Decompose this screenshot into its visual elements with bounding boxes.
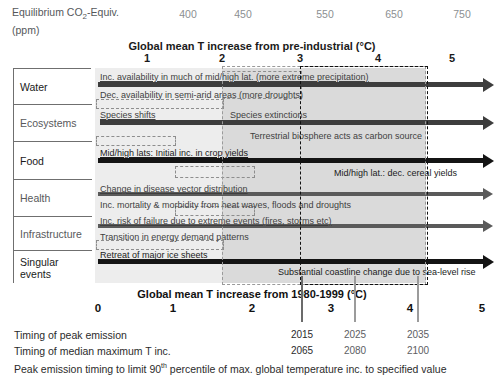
bottom-axis-title: Global mean T increase from 1980-1999 (°… xyxy=(0,288,504,300)
impact-text-2: Species shifts xyxy=(100,110,156,120)
footer-note-b: percentile of max. global temperature in… xyxy=(167,363,447,375)
health-arrow-head xyxy=(483,188,493,200)
bottom-axis-tick-3: 3 xyxy=(321,302,341,314)
footer-note: Peak emission timing to limit 90th perce… xyxy=(14,362,446,375)
co2-tick-750: 750 xyxy=(442,8,482,20)
median-max-year-2080: 2080 xyxy=(338,345,372,356)
co2-label-text1: Equilibrium CO xyxy=(12,6,83,18)
co2-label-text2: -Equiv. xyxy=(87,6,119,18)
co2-tick-550: 550 xyxy=(305,8,345,20)
food-arrow-head xyxy=(483,154,494,168)
category-label: Ecosystems xyxy=(20,117,77,129)
top-axis-title: Global mean T increase from pre-industri… xyxy=(0,40,504,52)
bottom-axis-tick-0: 0 xyxy=(88,302,108,314)
footer-note-a: Peak emission timing to limit 90 xyxy=(14,363,161,375)
top-axis-tick-5: 5 xyxy=(442,52,462,64)
category-cell-infrastructure[interactable]: Infrastructure xyxy=(14,217,92,251)
year-marker-line-2025 xyxy=(354,276,356,322)
category-label: Food xyxy=(20,155,44,167)
peak-emission-year-2025: 2025 xyxy=(338,329,372,340)
ecosystems-inner-box xyxy=(96,99,224,109)
category-column: WaterEcosystemsFoodHealthInfrastructureS… xyxy=(13,68,91,283)
category-cell-ecosystems[interactable]: Ecosystems xyxy=(14,105,92,142)
top-axis-tick-3: 3 xyxy=(290,52,310,64)
year-marker-line-2015 xyxy=(301,276,303,322)
category-label: Infrastructure xyxy=(20,228,82,240)
category-cell-health[interactable]: Health xyxy=(14,180,92,217)
top-axis-tick-2: 2 xyxy=(212,52,232,64)
top-axis-tick-1: 1 xyxy=(137,52,157,64)
impact-text-11: Retreat of major ice sheets xyxy=(100,250,208,260)
co2-tick-400: 400 xyxy=(168,8,208,20)
bottom-axis-tick-1: 1 xyxy=(163,302,183,314)
footer-median-max-label: Timing of median maximum T inc. xyxy=(14,345,171,357)
peak-emission-year-2035: 2035 xyxy=(401,329,435,340)
bottom-axis-tick-2: 2 xyxy=(242,302,262,314)
ecosystems-arrow-head xyxy=(483,116,494,130)
co2-equiv-label: Equilibrium CO2-Equiv. (ppm) xyxy=(12,6,162,36)
black-dashed-region xyxy=(300,66,428,285)
category-label: Water xyxy=(20,81,48,93)
water-arrow-head xyxy=(483,78,494,92)
co2-tick-450: 450 xyxy=(223,8,263,20)
footer-peak-emission-label: Timing of peak emission xyxy=(14,329,127,341)
year-marker-line-2035 xyxy=(417,276,419,322)
median-max-year-2065: 2065 xyxy=(285,345,319,356)
peak-emission-year-2015: 2015 xyxy=(285,329,319,340)
co2-tick-650: 650 xyxy=(374,8,414,20)
singular-arrow-head xyxy=(483,255,494,269)
category-label: Singular events xyxy=(20,256,92,280)
category-cell-food[interactable]: Food xyxy=(14,142,92,180)
median-max-year-2100: 2100 xyxy=(401,345,435,356)
top-axis-tick-4: 4 xyxy=(368,52,388,64)
bottom-axis-tick-5: 5 xyxy=(472,302,492,314)
infrastructure-arrow-head xyxy=(483,220,493,232)
co2-units: (ppm) xyxy=(12,24,39,36)
category-cell-singular-events[interactable]: Singular events xyxy=(14,251,92,284)
food-inner-box xyxy=(96,136,176,146)
category-label: Health xyxy=(20,192,50,204)
category-cell-water[interactable]: Water xyxy=(14,69,92,105)
